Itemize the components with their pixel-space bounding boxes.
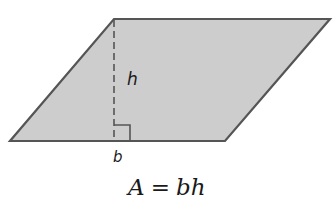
height-label: h: [127, 71, 138, 88]
formula-rhs: bh: [176, 174, 206, 200]
formula-equals: =: [151, 174, 170, 200]
base-label: b: [113, 150, 123, 165]
parallelogram-shape: [10, 19, 330, 141]
parallelogram-area-diagram: h b A=bh: [0, 0, 335, 207]
area-formula: A=bh: [128, 176, 205, 199]
formula-lhs: A: [128, 174, 145, 200]
